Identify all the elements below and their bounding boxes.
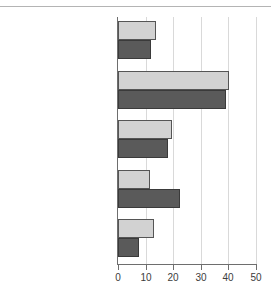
x-tick-10 <box>146 265 147 270</box>
bar-group <box>118 120 256 158</box>
bar-series-2 <box>118 189 180 208</box>
bar-group <box>118 21 256 59</box>
x-tick-0 <box>118 265 119 270</box>
x-axis-line <box>118 264 257 265</box>
x-tick-label-0: 0 <box>106 272 130 284</box>
bar-series-1 <box>118 21 156 40</box>
bar-group <box>118 219 256 257</box>
x-tick-label-30: 30 <box>189 272 213 284</box>
bar-group <box>118 170 256 208</box>
bar-series-1 <box>118 71 229 90</box>
x-tick-50 <box>256 265 257 270</box>
x-tick-label-50: 50 <box>244 272 268 284</box>
bar-group <box>118 71 256 109</box>
x-tick-30 <box>201 265 202 270</box>
top-divider-rule <box>0 6 271 7</box>
gridline-50 <box>256 17 257 264</box>
bar-series-2 <box>118 238 139 257</box>
bar-series-2 <box>118 90 226 109</box>
x-tick-40 <box>228 265 229 270</box>
bar-series-1 <box>118 170 150 189</box>
x-tick-label-40: 40 <box>216 272 240 284</box>
bar-series-1 <box>118 219 154 238</box>
x-tick-20 <box>173 265 174 270</box>
bar-series-2 <box>118 40 151 59</box>
bar-series-1 <box>118 120 172 139</box>
x-tick-label-20: 20 <box>161 272 185 284</box>
bar-chart-figure: 01020304050Providing business servicesPr… <box>0 0 271 302</box>
x-tick-label-10: 10 <box>134 272 158 284</box>
bar-series-2 <box>118 139 168 158</box>
